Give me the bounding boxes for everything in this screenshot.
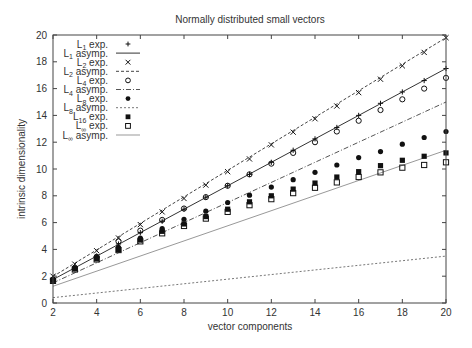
y-tick-label: 20 [36, 30, 48, 41]
plot-frame [53, 35, 446, 303]
x-tick-label: 8 [181, 307, 187, 318]
y-tick-label: 10 [36, 164, 48, 175]
y-tick-label: 18 [36, 56, 48, 67]
x-tick-label: 18 [397, 307, 409, 318]
x-tick-label: 10 [222, 307, 234, 318]
series-line [53, 256, 446, 298]
x-tick-label: 16 [353, 307, 365, 318]
series-line [53, 150, 446, 286]
y-tick-label: 14 [36, 110, 48, 121]
legend-marker-sample [126, 60, 131, 65]
plot-lines [53, 38, 446, 298]
plot-points [50, 35, 448, 283]
legend-label: L∞ asymp. [62, 130, 108, 143]
legend-marker-sample [126, 78, 131, 83]
x-tick-label: 6 [138, 307, 144, 318]
y-tick-label: 6 [41, 217, 47, 228]
x-tick-label: 2 [50, 307, 56, 318]
x-tick-label: 12 [266, 307, 278, 318]
y-tick-label: 8 [41, 190, 47, 201]
legend: L1 exp.L1 asymp.L2 exp.L2 asymp.L4 exp.L… [62, 39, 140, 143]
x-tick-label: 20 [440, 307, 452, 318]
legend-marker-sample [126, 42, 131, 47]
series-points [50, 129, 448, 283]
legend-entry: L∞ asymp. [62, 130, 140, 143]
series-points [50, 75, 448, 282]
chart-title: Normally distributed small vectors [175, 14, 325, 25]
series-points [50, 160, 448, 284]
y-tick-label: 0 [41, 298, 47, 309]
x-tick-label: 4 [94, 307, 100, 318]
x-axis-label: vector components [208, 321, 293, 332]
legend-marker-sample [126, 114, 131, 119]
y-axis-label: intrinsic dimensionality [16, 119, 27, 219]
y-tick-label: 16 [36, 83, 48, 94]
legend-marker-sample [126, 96, 131, 101]
x-tick-label: 14 [309, 307, 321, 318]
series-line [53, 102, 446, 283]
y-tick-label: 12 [36, 137, 48, 148]
y-tick-label: 4 [41, 244, 47, 255]
y-tick-label: 2 [41, 271, 47, 282]
chart: Normally distributed small vectors 24681… [0, 0, 472, 348]
legend-marker-sample [126, 124, 131, 129]
series-line [53, 38, 446, 277]
